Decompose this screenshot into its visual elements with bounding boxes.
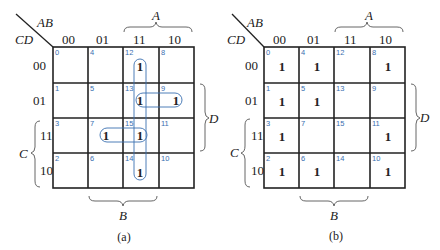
col-label: 10 xyxy=(168,33,181,46)
cell-index: 4 xyxy=(90,49,94,57)
col-label: 00 xyxy=(273,33,286,46)
cell-value: 1 xyxy=(385,60,392,73)
var-ab-label: AB xyxy=(247,16,263,29)
row-label: 10 xyxy=(40,164,53,177)
brace-a-label: A xyxy=(152,9,160,22)
var-ab-label: AB xyxy=(37,16,53,29)
cell-value: 1 xyxy=(279,95,286,108)
col-label: 11 xyxy=(344,33,357,46)
brace-c-label: C xyxy=(230,146,239,159)
cell-index: 9 xyxy=(161,85,165,93)
cell-index: 15 xyxy=(125,120,133,128)
cell-index: 5 xyxy=(90,85,94,93)
var-cd-label: CD xyxy=(15,33,33,46)
brace-d-label: D xyxy=(209,112,218,125)
cell-value: 1 xyxy=(385,165,392,178)
cell-value: 1 xyxy=(314,95,321,108)
col-label: 10 xyxy=(379,33,392,46)
cell-value: 1 xyxy=(279,130,286,143)
col-label: 00 xyxy=(62,33,75,46)
brace-c-label: C xyxy=(19,147,28,160)
brace-d-label: D xyxy=(420,111,429,124)
col-label: 01 xyxy=(307,33,320,46)
cell-index: 11 xyxy=(161,120,169,128)
caption: (b) xyxy=(329,230,343,242)
col-label: 11 xyxy=(133,33,146,46)
cell-index: 4 xyxy=(301,49,305,57)
cell-index: 3 xyxy=(55,120,59,128)
cell-value: 1 xyxy=(103,129,110,142)
cell-index: 2 xyxy=(55,155,59,163)
cell-index: 11 xyxy=(372,120,380,128)
cell-index: 12 xyxy=(336,49,344,57)
row-label: 11 xyxy=(40,129,53,142)
cell-index: 14 xyxy=(125,155,133,163)
cell-value: 1 xyxy=(173,94,180,107)
caption: (a) xyxy=(117,231,130,243)
cell-index: 12 xyxy=(125,49,133,57)
cell-value: 1 xyxy=(314,60,321,73)
row-label: 11 xyxy=(251,129,264,142)
cell-index: 6 xyxy=(90,155,94,163)
row-label: 10 xyxy=(251,164,264,177)
cell-index: 8 xyxy=(372,49,376,57)
cell-index: 7 xyxy=(90,120,94,128)
cell-index: 1 xyxy=(266,85,270,93)
row-label: 00 xyxy=(33,59,46,72)
brace-a-label: A xyxy=(365,9,373,22)
cell-value: 1 xyxy=(279,165,286,178)
cell-index: 6 xyxy=(301,155,305,163)
row-label: 00 xyxy=(245,59,258,72)
cell-value: 1 xyxy=(137,60,144,73)
cell-value: 1 xyxy=(137,94,144,107)
cell-index: 10 xyxy=(161,155,169,163)
cell-value: 1 xyxy=(314,165,321,178)
cell-index: 7 xyxy=(301,120,305,128)
cell-index: 8 xyxy=(161,49,165,57)
cell-index: 13 xyxy=(125,85,133,93)
var-cd-label: CD xyxy=(227,33,245,46)
cell-value: 1 xyxy=(385,130,392,143)
brace-b-label: B xyxy=(119,209,127,222)
cell-index: 10 xyxy=(372,155,380,163)
col-label: 01 xyxy=(96,33,109,46)
row-label: 01 xyxy=(33,94,46,107)
cell-value: 1 xyxy=(137,129,144,142)
cell-index: 15 xyxy=(336,120,344,128)
cell-index: 1 xyxy=(55,85,59,93)
cell-index: 5 xyxy=(301,85,305,93)
cell-index: 14 xyxy=(336,155,344,163)
cell-index: 3 xyxy=(266,120,270,128)
cell-index: 9 xyxy=(372,85,376,93)
cell-value: 1 xyxy=(279,60,286,73)
kmap-a-loops xyxy=(100,59,182,180)
cell-index: 13 xyxy=(336,85,344,93)
cell-index: 0 xyxy=(55,49,59,57)
cell-index: 2 xyxy=(266,155,270,163)
brace-b-label: B xyxy=(330,209,338,222)
cell-value: 1 xyxy=(137,166,144,179)
row-label: 01 xyxy=(245,94,258,107)
cell-index: 0 xyxy=(266,49,270,57)
